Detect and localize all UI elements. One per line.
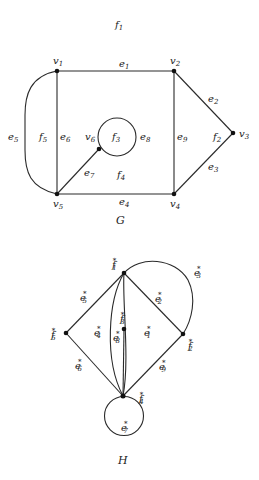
graph-g-caption: G	[116, 214, 125, 227]
vertex-f4-star	[121, 394, 126, 399]
edge-label-e5: e5	[8, 131, 19, 144]
diagram-canvas: f1 v1 v2 v3 v4 v5 v6 e1 e2 e3 e4 e5 e6 e…	[0, 0, 259, 480]
edge-label-e7-star: e*7	[121, 420, 128, 435]
graph-g: f1 v1 v2 v3 v4 v5 v6 e1 e2 e3 e4 e5 e6 e…	[8, 19, 250, 227]
edge-label-e5-star: e*5	[80, 290, 87, 305]
edge-e2	[174, 71, 233, 133]
edge-label-e1: e1	[119, 58, 129, 71]
vertex-v1	[55, 69, 60, 74]
edge-label-e1-star: e*1	[144, 325, 151, 340]
graph-h: f*1 f*2 f*3 f*4 f*5 e*1 e*2 e*3 e*4 e*5 …	[50, 257, 201, 467]
vertex-label-v2: v2	[170, 55, 181, 68]
vertex-v6	[97, 147, 102, 152]
vertex-label-v3: v3	[239, 128, 250, 141]
edge-label-e3: e3	[208, 161, 219, 174]
graph-h-caption: H	[117, 454, 128, 467]
vertex-f5-star	[64, 331, 69, 336]
edge-label-e4-star: e*4	[94, 325, 101, 340]
edge-label-e8-star: e*8	[113, 330, 120, 345]
vertex-label-f4-star: f*4	[138, 391, 145, 406]
vertex-v5	[55, 192, 60, 197]
face-label-f2: f2	[212, 131, 222, 144]
face-label-f3: f3	[111, 131, 121, 144]
edge-label-e9: e9	[177, 131, 188, 144]
edge-e5-star	[66, 273, 124, 333]
edge-label-e6: e6	[60, 131, 71, 144]
face-label-f5: f5	[38, 131, 48, 144]
vertex-f2-star	[181, 332, 186, 337]
edge-label-e8: e8	[140, 131, 151, 144]
edge-label-e2: e2	[208, 93, 219, 106]
edge-label-e6-star: e*6	[75, 358, 82, 373]
vertex-f3-star	[122, 327, 127, 332]
vertex-label-f1-star: f*1	[111, 257, 118, 272]
edge-label-e9-star: e*9	[159, 359, 166, 374]
edge-e2-star	[124, 273, 183, 334]
vertex-label-f5-star: f*5	[50, 327, 57, 342]
edge-label-e2-star: e*2	[155, 291, 162, 306]
vertex-label-v5: v5	[53, 198, 64, 211]
face-label-f1: f1	[114, 19, 123, 32]
vertex-v4	[172, 192, 177, 197]
vertex-v3	[231, 131, 236, 136]
vertex-v2	[172, 69, 177, 74]
edge-label-e3-star: e*3	[194, 265, 201, 280]
vertex-label-f2-star: f*2	[187, 338, 194, 353]
vertex-f1-star	[122, 271, 127, 276]
face-label-f4: f4	[116, 169, 125, 182]
vertex-label-v4: v4	[170, 198, 180, 211]
edge-label-e4: e4	[119, 196, 129, 209]
vertex-label-v1: v1	[53, 55, 63, 68]
vertex-label-v6: v6	[85, 131, 96, 144]
edge-label-e7: e7	[84, 167, 95, 180]
edge-e8-star	[123, 329, 124, 396]
edge-e9-star	[123, 334, 183, 396]
